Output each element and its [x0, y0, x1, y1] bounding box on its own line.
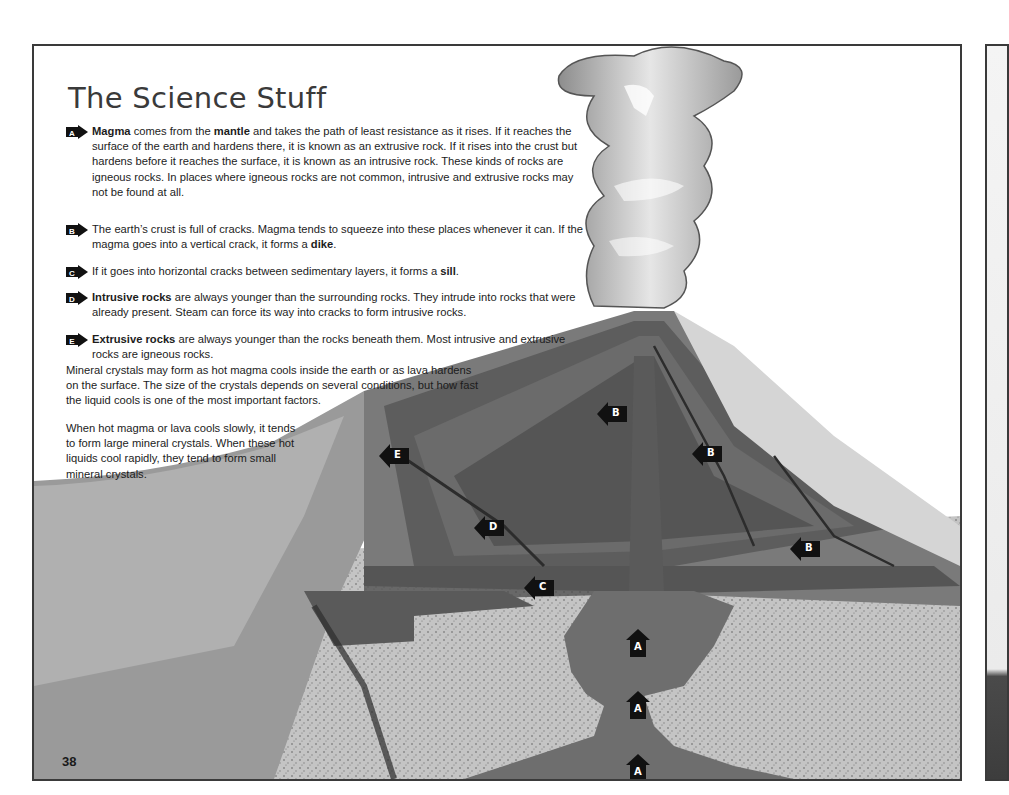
marker-c-arrow-icon: C: [66, 265, 88, 279]
marker-e-arrow-icon: E: [66, 333, 88, 347]
paragraph-mineral-crystals: Mineral crystals may form as hot magma c…: [66, 363, 486, 409]
adjacent-page-edge: [985, 44, 1009, 781]
book-page: The Science Stuff A Magma comes from the…: [32, 44, 962, 781]
svg-text:D: D: [69, 295, 75, 304]
diagram-marker-a-2: A: [626, 691, 650, 719]
item-b-dike: B The earth’s crust is full of cracks. M…: [66, 222, 586, 252]
item-e-extrusive-rocks: E Extrusive rocks are always younger tha…: [66, 332, 586, 362]
term-mantle: mantle: [214, 125, 250, 137]
marker-a-arrow-icon: A: [66, 125, 88, 139]
term-extrusive-rocks: Extrusive rocks: [92, 333, 175, 345]
term-magma: Magma: [92, 125, 131, 137]
item-d-intrusive-rocks: D Intrusive rocks are always younger tha…: [66, 290, 586, 320]
term-dike: dike: [311, 238, 333, 250]
diagram-marker-b-1: B: [597, 402, 627, 426]
page-title: The Science Stuff: [68, 81, 326, 115]
paragraph-cooling-rate: When hot magma or lava cools slowly, it …: [66, 421, 304, 482]
diagram-marker-b-3: B: [790, 537, 820, 561]
diagram-marker-a-1: A: [626, 629, 650, 657]
marker-d-arrow-icon: D: [66, 291, 88, 305]
svg-text:A: A: [69, 129, 75, 138]
item-a-magma: A Magma comes from the mantle and takes …: [66, 124, 586, 200]
svg-text:E: E: [69, 337, 75, 346]
item-c-sill: C If it goes into horizontal cracks betw…: [66, 264, 586, 279]
svg-text:B: B: [69, 227, 75, 236]
term-sill: sill: [440, 265, 456, 277]
diagram-marker-a-3: A: [626, 754, 650, 781]
diagram-marker-d: D: [474, 516, 504, 540]
term-intrusive-rocks: Intrusive rocks: [92, 291, 172, 303]
page-number: 38: [62, 754, 76, 769]
svg-text:C: C: [69, 269, 75, 278]
diagram-marker-b-2: B: [692, 442, 722, 466]
marker-b-arrow-icon: B: [66, 223, 88, 237]
diagram-marker-c: C: [524, 576, 554, 600]
diagram-marker-e: E: [379, 444, 409, 468]
